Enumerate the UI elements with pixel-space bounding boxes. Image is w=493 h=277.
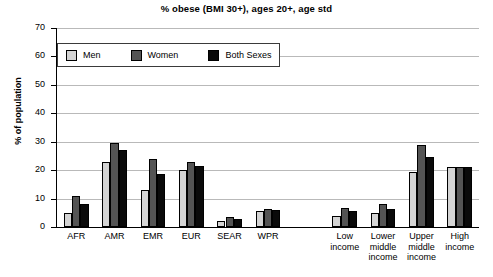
bar <box>341 208 349 227</box>
bar <box>379 204 387 227</box>
y-tick-value: 0 <box>40 221 45 232</box>
bar <box>80 204 88 227</box>
bar <box>179 170 187 227</box>
bar <box>417 145 425 227</box>
bar <box>149 159 157 227</box>
y-tick-value: 10 <box>35 193 45 204</box>
x-axis-label-line: WPR <box>240 231 295 242</box>
chart-container: % obese (BMI 30+), ages 20+, age std % o… <box>0 0 493 277</box>
y-tick-value: 30 <box>35 136 45 147</box>
bar <box>264 209 272 227</box>
bar <box>110 143 118 227</box>
x-axis-label-line: income <box>394 252 449 263</box>
bar <box>409 172 417 227</box>
bar <box>187 162 195 227</box>
y-tick-value: 20 <box>35 164 45 175</box>
bar <box>426 157 434 227</box>
legend-swatch-icon <box>208 50 219 61</box>
gridline <box>57 85 479 86</box>
x-axis-group-label: WPR <box>240 231 295 242</box>
bar <box>272 210 280 227</box>
bar <box>102 162 110 227</box>
chart-legend: MenWomenBoth Sexes <box>57 43 280 67</box>
chart-title: % obese (BMI 30+), ages 20+, age std <box>0 3 493 14</box>
bar <box>387 209 395 227</box>
y-tick-value: 60 <box>35 50 45 61</box>
bar <box>157 174 165 227</box>
gridline <box>57 142 479 143</box>
bar <box>256 211 264 227</box>
y-axis-label: % of population <box>13 31 23 191</box>
x-axis-line <box>56 227 479 228</box>
legend-swatch-icon <box>131 50 142 61</box>
bar <box>371 213 379 227</box>
bar <box>456 167 464 227</box>
legend-swatch-icon <box>66 50 77 61</box>
gridline <box>57 28 479 29</box>
bar <box>464 167 472 227</box>
legend-label: Men <box>83 50 101 60</box>
bar <box>119 150 127 227</box>
y-tick-label: 10 <box>0 199 48 200</box>
legend-label: Both Sexes <box>225 50 271 60</box>
y-tick-label: 50 <box>0 85 48 86</box>
y-tick-value: 50 <box>35 79 45 90</box>
bar <box>332 216 340 227</box>
x-axis-label-line: High <box>432 231 487 242</box>
y-tick-value: 40 <box>35 107 45 118</box>
gridline <box>57 113 479 114</box>
legend-label: Women <box>148 50 179 60</box>
y-tick-label: 30 <box>0 142 48 143</box>
bar <box>64 213 72 227</box>
legend-item: Women <box>131 50 179 61</box>
bar <box>447 167 455 227</box>
y-tick-label: 20 <box>0 170 48 171</box>
bar <box>217 221 225 227</box>
y-tick-label: 0 <box>0 227 48 228</box>
bar <box>349 211 357 227</box>
y-tick-label: 40 <box>0 113 48 114</box>
legend-item: Both Sexes <box>208 50 271 61</box>
bar <box>226 217 234 227</box>
legend-item: Men <box>66 50 101 61</box>
bar <box>234 219 242 227</box>
y-tick-label: 60 <box>0 56 48 57</box>
x-axis-group-label: Highincome <box>432 231 487 252</box>
x-axis-label-line: income <box>432 242 487 253</box>
y-tick-value: 70 <box>35 22 45 33</box>
y-tick-label: 70 <box>0 28 48 29</box>
bar <box>72 196 80 227</box>
bar <box>195 166 203 227</box>
bar <box>141 190 149 227</box>
